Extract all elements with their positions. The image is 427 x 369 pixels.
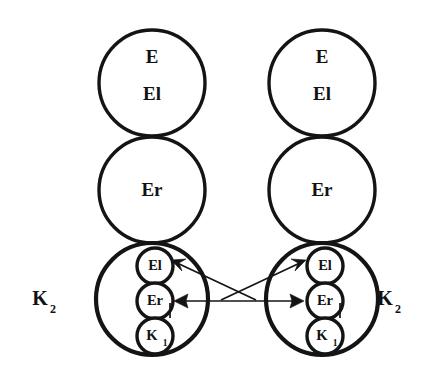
right-top-label-line2: El [313,83,331,104]
right-side-label-text: K [377,287,393,309]
left-middle-circle[interactable]: Er [99,137,205,243]
left-top-label-line2: El [143,83,161,104]
left-side-label-text: K [32,287,48,309]
left-inner-k1-subscript: 1 [163,338,168,348]
right-inner-circle-el[interactable]: El [307,248,343,284]
right-top-circle[interactable]: E El [269,30,375,136]
right-unit: E El Er El Er K [266,30,378,355]
left-inner-el-label: El [148,257,162,273]
right-side-label-subscript: 2 [395,302,401,316]
right-inner-er-label: Er [317,292,334,308]
left-inner-er-label: Er [147,292,164,308]
left-side-label-subscript: 2 [50,302,56,316]
left-inner-circle-k1[interactable]: K 1 [137,318,173,354]
left-unit: E El Er El Er K [96,30,208,355]
diagram-svg: E El Er El Er K [0,0,427,369]
right-middle-circle[interactable]: Er [269,137,375,243]
diagram-canvas: E El Er El Er K [0,0,427,369]
right-inner-el-label: El [318,257,332,273]
right-inner-circle-er[interactable]: Er [307,283,343,319]
right-inner-circle-k1[interactable]: K 1 [307,318,343,354]
right-inner-k1-label: K [316,327,328,343]
left-inner-k1-label: K [146,327,158,343]
left-middle-label: Er [141,179,163,200]
left-inner-circle-el[interactable]: El [137,248,173,284]
left-top-label-line1: E [146,46,159,67]
left-top-circle[interactable]: E El [99,30,205,136]
right-top-label-line1: E [316,46,329,67]
right-inner-k1-subscript: 1 [333,338,338,348]
right-middle-label: Er [311,179,333,200]
left-inner-circle-er[interactable]: Er [137,283,173,319]
